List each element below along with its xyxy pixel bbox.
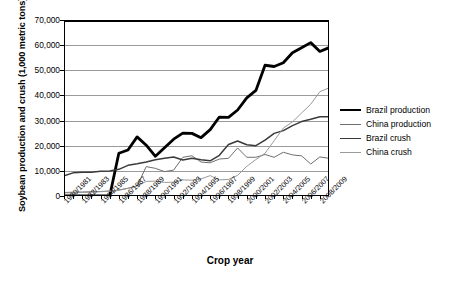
legend-item: China production [340,117,464,131]
plot-frame [64,20,329,196]
legend-item: Brazil crush [340,131,464,145]
x-axis-title: Crop year [140,255,320,266]
legend-swatch [340,124,361,125]
chart-figure: Soybean production and crush (1,000 metr… [0,0,466,284]
legend-label: Brazil production [366,105,430,115]
y-axis-tick-marks [0,20,66,196]
legend-item: China crush [340,145,464,159]
chart-legend: Brazil productionChina productionBrazil … [340,103,464,159]
legend-swatch [340,138,361,139]
legend-label: China crush [366,147,412,157]
legend-label: China production [366,119,431,129]
legend-label: Brazil crush [366,133,411,143]
x-axis-tick-labels: 1980/19811982/19831984/19851986/19871988… [64,199,364,255]
legend-item: Brazil production [340,103,464,117]
plot-area [64,20,329,196]
legend-swatch [340,109,361,111]
legend-swatch [340,152,361,153]
